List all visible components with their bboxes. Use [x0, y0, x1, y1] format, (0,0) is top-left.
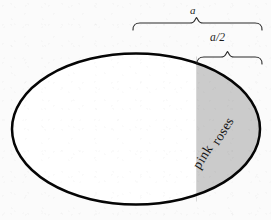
- ellipse-diagram-svg: [0, 0, 271, 220]
- geometry-figure: pink roses a a/2 pink roses: [0, 0, 271, 220]
- bracket-full-width: [133, 18, 262, 31]
- bracket-half-width: [197, 52, 262, 65]
- dimension-label-a: a: [190, 5, 196, 16]
- dimension-label-a-half: a/2: [210, 32, 225, 44]
